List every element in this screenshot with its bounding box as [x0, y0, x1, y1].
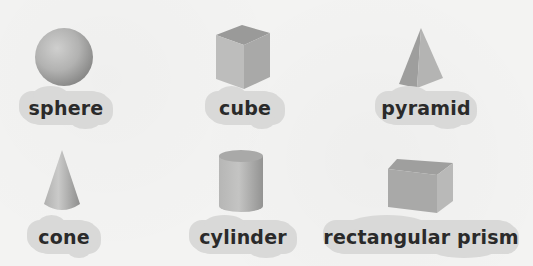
cylinder-shape [216, 148, 266, 214]
label-text: sphere [29, 97, 104, 119]
label-cylinder: cylinder [192, 221, 294, 253]
rectangular-prism-shape [385, 157, 455, 215]
rectangular-prism-icon [385, 157, 455, 215]
label-pyramid: pyramid [378, 92, 474, 124]
label-cone: cone [30, 221, 98, 253]
sphere-icon [33, 26, 95, 88]
cone-shape [42, 148, 82, 214]
label-cube: cube [208, 92, 282, 124]
label-sphere: sphere [22, 92, 110, 124]
cylinder-icon [216, 148, 266, 214]
pyramid-icon [397, 26, 445, 90]
pyramid-shape [397, 26, 445, 90]
cone-icon [42, 148, 82, 214]
cube-icon [212, 23, 274, 91]
label-text: cylinder [199, 226, 287, 248]
cube-shape [212, 23, 274, 91]
label-rectangular-prism: rectangular prism [326, 221, 516, 253]
label-text: cube [219, 97, 271, 119]
label-text: rectangular prism [323, 226, 518, 248]
label-text: pyramid [381, 97, 471, 119]
label-text: cone [38, 226, 90, 248]
sphere-shape [33, 26, 95, 88]
